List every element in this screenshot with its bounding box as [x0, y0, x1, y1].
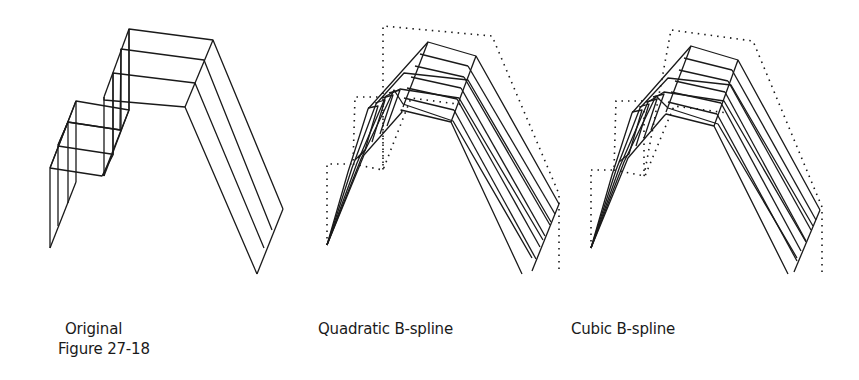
original-wireframe — [50, 29, 283, 274]
cubic-surface — [591, 46, 820, 274]
quadratic-surface — [327, 42, 559, 274]
quadratic-control-polygon — [327, 26, 559, 272]
panel-label-cubic: Cubic B-spline — [571, 320, 675, 338]
panel-label-original: Original — [65, 320, 122, 338]
figure-caption: Figure 27-18 — [58, 340, 150, 358]
panel-label-quadratic: Quadratic B-spline — [318, 320, 453, 338]
